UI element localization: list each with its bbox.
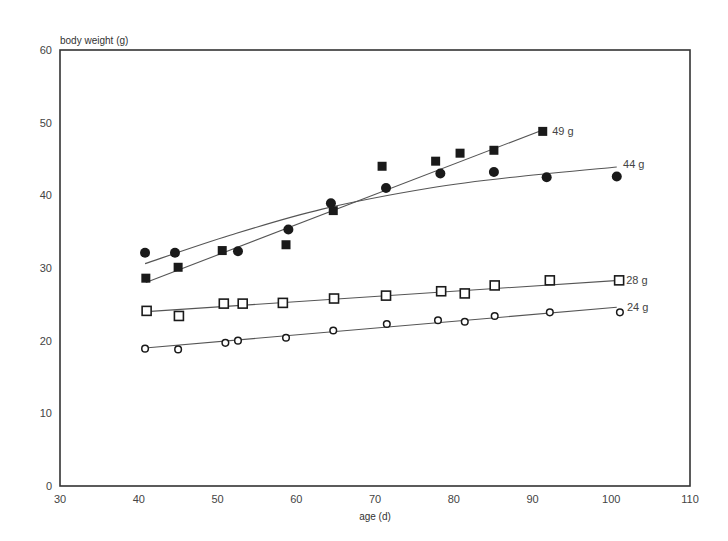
filled-circle-marker <box>326 198 336 208</box>
y-tick-label: 10 <box>40 407 52 419</box>
series-end-label: 24 g <box>627 301 648 313</box>
x-tick-label: 60 <box>290 493 302 505</box>
open-square-marker <box>437 287 446 296</box>
x-tick-label: 110 <box>681 493 699 505</box>
y-tick-label: 50 <box>40 117 52 129</box>
y-tick-label: 20 <box>40 335 52 347</box>
filled-circle-marker <box>489 167 499 177</box>
open-square-marker <box>219 299 228 308</box>
filled-circle-marker <box>170 248 180 258</box>
y-axis-title: body weight (g) <box>60 35 128 46</box>
open-circle-marker <box>142 345 149 352</box>
open-square-marker <box>490 281 499 290</box>
open-circle-marker <box>330 327 337 334</box>
filled-circle-marker <box>381 183 391 193</box>
filled-square-marker <box>538 127 547 136</box>
x-tick-label: 100 <box>602 493 620 505</box>
open-circle-marker <box>384 321 391 328</box>
x-tick-label: 70 <box>369 493 381 505</box>
filled-circle-marker <box>233 246 243 256</box>
open-circle-marker <box>283 334 290 341</box>
y-tick-label: 60 <box>40 44 52 56</box>
body-weight-chart: 49 g44 g28 g24 g 30405060708090100110 01… <box>0 0 728 541</box>
filled-circle-marker <box>283 224 293 234</box>
open-square-marker <box>142 306 151 315</box>
x-tick-label: 80 <box>448 493 460 505</box>
filled-square-marker <box>174 263 183 272</box>
y-tick-label: 30 <box>40 262 52 274</box>
open-circle-marker <box>617 309 624 316</box>
series-end-label: 49 g <box>552 125 573 137</box>
open-square-marker <box>174 311 183 320</box>
open-square-marker <box>382 291 391 300</box>
chart-background <box>0 0 728 541</box>
open-circle-marker <box>491 313 498 320</box>
open-square-marker <box>330 294 339 303</box>
series-end-label: 28 g <box>626 274 647 286</box>
y-tick-label: 40 <box>40 189 52 201</box>
x-axis-title: age (d) <box>359 511 391 522</box>
open-square-marker <box>238 299 247 308</box>
open-circle-marker <box>222 340 229 347</box>
open-circle-marker <box>175 346 182 353</box>
x-tick-label: 50 <box>211 493 223 505</box>
series-end-label: 44 g <box>623 158 644 170</box>
open-circle-marker <box>435 317 442 324</box>
open-circle-marker <box>235 337 242 344</box>
x-tick-label: 30 <box>54 493 66 505</box>
filled-square-marker <box>141 274 150 283</box>
filled-circle-marker <box>140 248 150 258</box>
y-tick-label: 0 <box>46 480 52 492</box>
open-circle-marker <box>547 309 554 316</box>
filled-square-marker <box>378 162 387 171</box>
filled-square-marker <box>218 246 227 255</box>
filled-square-marker <box>489 146 498 155</box>
open-square-marker <box>615 276 624 285</box>
x-tick-label: 90 <box>526 493 538 505</box>
filled-square-marker <box>456 149 465 158</box>
filled-square-marker <box>431 157 440 166</box>
open-square-marker <box>460 289 469 298</box>
filled-circle-marker <box>612 171 622 181</box>
filled-circle-marker <box>435 169 445 179</box>
open-circle-marker <box>461 318 468 325</box>
open-square-marker <box>278 298 287 307</box>
filled-square-marker <box>282 240 291 249</box>
open-square-marker <box>545 276 554 285</box>
filled-circle-marker <box>542 172 552 182</box>
x-tick-label: 40 <box>133 493 145 505</box>
